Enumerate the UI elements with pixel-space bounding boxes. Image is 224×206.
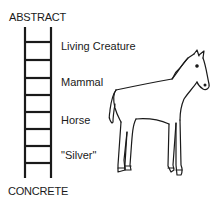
- horse-icon: [0, 0, 224, 206]
